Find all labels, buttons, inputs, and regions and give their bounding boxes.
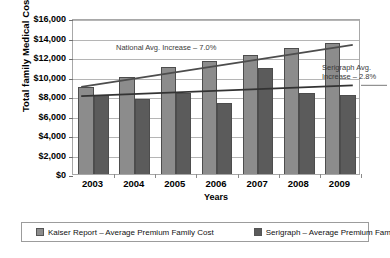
y-tick-mark [69,176,73,177]
x-tick-label: 2007 [247,178,268,189]
legend-item-kaiser[interactable]: Kaiser Report – Average Premium Family C… [36,228,214,237]
bar-group [284,20,314,174]
bar-serigraph[interactable] [176,93,191,174]
y-tick-label: $10,000 [33,73,66,83]
bar-kaiser[interactable] [161,67,176,174]
bar-serigraph[interactable] [217,103,232,174]
chart-figure: Total family Medical Costs $0$2,000$4,00… [0,0,390,258]
bar-kaiser[interactable] [202,61,217,174]
x-tick-label: 2005 [164,178,185,189]
legend-swatch-icon-serigraph [254,228,262,236]
chart-legend: Kaiser Report – Average Premium Family C… [21,222,369,242]
bar-kaiser[interactable] [243,55,258,174]
y-tick-label: $12,000 [33,53,66,63]
bar-group [243,20,273,174]
x-tick-label: 2009 [329,178,350,189]
bar-group [78,20,108,174]
x-tick-label: 2008 [288,178,309,189]
x-axis-title: Years [72,192,360,202]
y-tick-label: $8,000 [38,92,66,102]
bar-kaiser[interactable] [119,77,134,175]
x-tick-mark [361,174,362,178]
legend-label-kaiser: Kaiser Report – Average Premium Family C… [48,228,214,237]
bar-group [325,20,355,174]
annotation-serigraph-average: Serigraph Avg. Increase – 2.8% [322,63,384,82]
bar-serigraph[interactable] [135,99,150,174]
x-tick-label: 2006 [205,178,226,189]
y-tick-label: $4,000 [38,131,66,141]
bar-serigraph[interactable] [258,68,273,174]
legend-swatch-icon-kaiser [36,228,44,236]
y-tick-label: $0 [56,170,66,180]
y-axis-tick-labels: $0$2,000$4,000$6,000$8,000$10,000$12,000… [14,19,66,175]
legend-label-serigraph: Serigraph – Average Premium Family Cost [266,228,390,237]
legend-item-serigraph[interactable]: Serigraph – Average Premium Family Cost [254,228,390,237]
bar-serigraph[interactable] [340,95,355,174]
x-tick-label: 2003 [82,178,103,189]
bar-kaiser[interactable] [78,87,93,174]
y-tick-label: $2,000 [38,151,66,161]
bar-serigraph[interactable] [299,93,314,174]
x-axis-tick-labels: 2003200420052006200720082009 [72,178,360,192]
annotation-national-average: National Avg. Increase – 7.0% [116,43,216,52]
y-tick-label: $14,000 [33,34,66,44]
bar-serigraph[interactable] [94,95,109,174]
y-tick-label: $6,000 [38,112,66,122]
bar-kaiser[interactable] [284,48,299,174]
y-tick-label: $16,000 [33,14,66,24]
x-tick-label: 2004 [123,178,144,189]
